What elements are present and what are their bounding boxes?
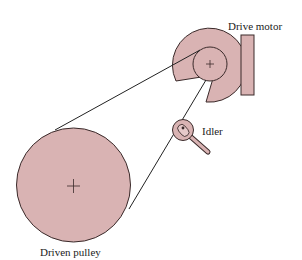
belt-upper-span — [55, 50, 200, 130]
belt-drive-diagram: Drive motor Idler Driven pulley — [0, 0, 302, 260]
idler-pivot — [182, 127, 185, 130]
idler-label: Idler — [202, 125, 223, 137]
drive-motor-label: Drive motor — [228, 20, 282, 32]
belt-lower-span — [129, 80, 206, 209]
driven-pulley-label: Driven pulley — [40, 246, 101, 258]
motor-body — [241, 35, 254, 95]
